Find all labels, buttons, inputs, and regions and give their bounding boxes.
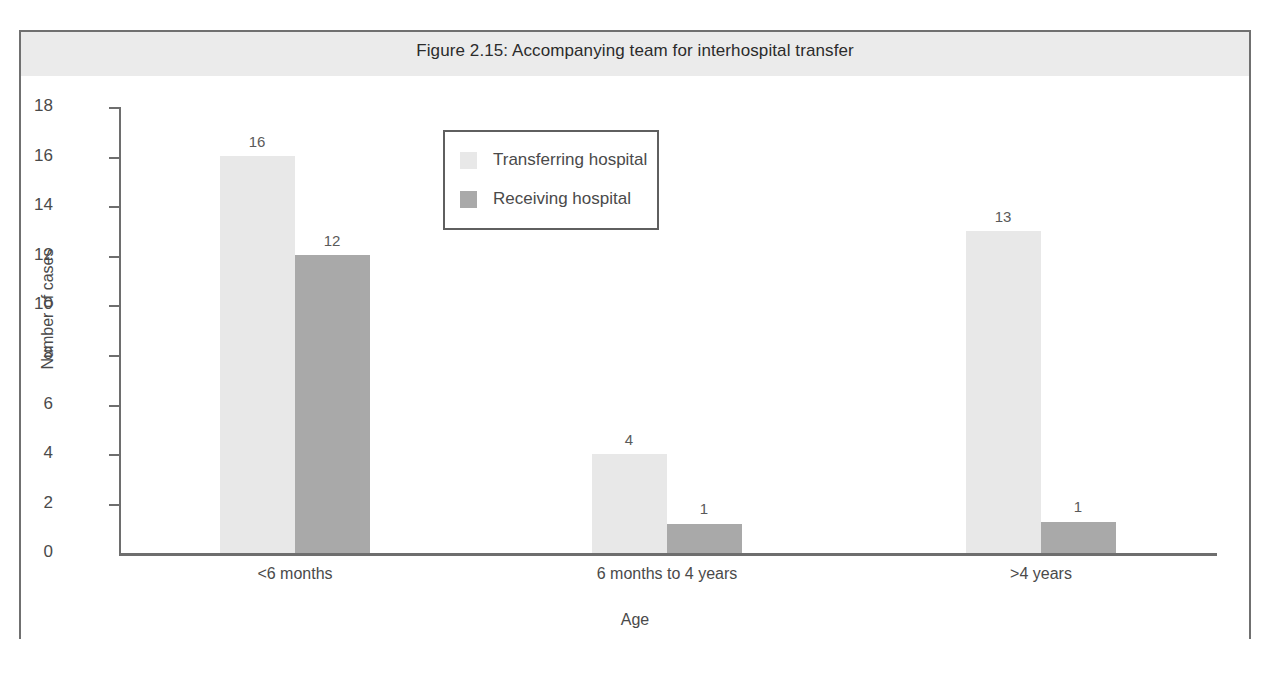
bar-transferring-0 [220, 156, 295, 553]
legend-item-receiving: Receiving hospital [460, 189, 631, 209]
x-category-label-2: >4 years [1010, 565, 1072, 583]
bar-receiving-2 [1041, 522, 1116, 553]
bar-value-receiving-0: 12 [324, 232, 341, 249]
plot-area: 18 16 14 12 10 8 6 4 2 0 Number of cases [21, 76, 1249, 639]
legend-label-transferring: Transferring hospital [493, 150, 647, 170]
figure-title-band: Figure 2.15: Accompanying team for inter… [21, 32, 1249, 76]
figure-root: Figure 2.15: Accompanying team for inter… [0, 0, 1272, 673]
bar-receiving-0 [295, 255, 370, 553]
x-category-label-0: <6 months [257, 565, 332, 583]
bar-value-receiving-2: 1 [1074, 498, 1082, 515]
chart-legend: Transferring hospital Receiving hospital [443, 130, 659, 230]
figure-frame: Figure 2.15: Accompanying team for inter… [19, 30, 1251, 639]
bar-value-transferring-1: 4 [625, 431, 633, 448]
bar-transferring-1 [592, 454, 667, 553]
legend-item-transferring: Transferring hospital [460, 150, 647, 170]
bar-receiving-1 [667, 524, 742, 553]
bar-value-transferring-0: 16 [249, 133, 266, 150]
figure-title: Figure 2.15: Accompanying team for inter… [21, 41, 1249, 61]
bar-value-receiving-1: 1 [700, 500, 708, 517]
legend-swatch-receiving [460, 191, 477, 208]
x-axis-line [119, 553, 1217, 556]
x-category-label-1: 6 months to 4 years [597, 565, 738, 583]
legend-label-receiving: Receiving hospital [493, 189, 631, 209]
bar-value-transferring-2: 13 [995, 208, 1012, 225]
legend-swatch-transferring [460, 152, 477, 169]
x-axis-title: Age [21, 611, 1249, 629]
bar-transferring-2 [966, 231, 1041, 553]
